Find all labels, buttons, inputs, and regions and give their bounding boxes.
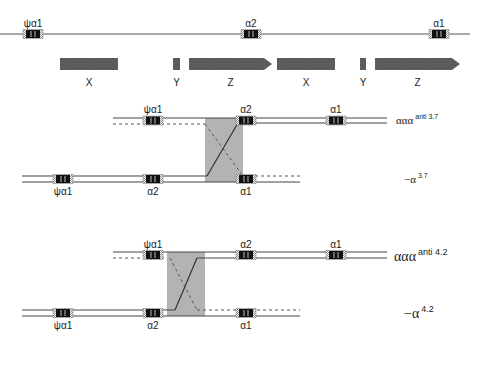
gene-1: α1 [326,104,346,125]
label-sup-4-2: 4.2 [421,304,434,314]
gene-label: α1 [240,320,252,331]
alpha-globin-crossover-diagram: ψα1α2α1 XYZXYZ ψα1α2α1 ψα1α2α1 αααanti 3… [0,0,477,373]
gene-1: ψα1 [53,175,73,197]
gene-label: α2 [240,239,252,250]
gene-label: α1 [433,18,445,29]
gene-1: ψα1 [143,239,163,260]
gene-label: ψα1 [24,18,43,29]
gene-2: α2 [236,104,256,125]
homology-block-y: Y [360,58,367,88]
panel-3-7-crossover: ψα1α2α1 ψα1α2α1 αααanti 3.7 −α3.7 [22,104,438,197]
gene-label: α2 [147,186,159,197]
gene-label: α1 [330,104,342,115]
gene-label: α1 [330,239,342,250]
label-minus-a-4-2: −α [404,306,420,321]
homology-block-x: X [60,58,118,88]
gene-label: ψα1 [54,320,73,331]
svg-text:−α3.7: −α3.7 [404,172,428,185]
homology-block-x: X [277,58,335,88]
homology-block-z: Z [189,58,272,88]
label-aaa-anti-4-2: ααα [394,249,417,264]
homology-block-label: X [303,77,310,88]
gene-label: α1 [240,186,252,197]
gene-label: α2 [240,104,252,115]
label-aaa-anti-3-7: ααα [396,114,414,126]
gene-1: α1 [236,309,256,331]
homology-block-label: Y [360,77,367,88]
gene-1: α1 [326,239,346,260]
homology-block-label: Y [173,77,180,88]
top-chromosome-map: ψα1α2α1 [0,18,470,39]
svg-text:−α4.2: −α4.2 [404,304,434,321]
homology-block-label: Z [414,77,420,88]
homology-block-z: Z [375,58,460,88]
gene-2: α2 [143,175,163,197]
label-sup-anti-3-7: anti 3.7 [415,113,438,120]
homology-blocks: XYZXYZ [60,58,460,88]
homology-block-label: Z [227,77,233,88]
gene-1: α1 [236,175,256,197]
gene-label: ψα1 [144,239,163,250]
gene-1: α1 [429,18,449,39]
svg-text:αααanti 3.7: αααanti 3.7 [396,113,438,126]
gene-1: ψα1 [23,18,43,39]
homology-block-y: Y [173,58,180,88]
gene-label: α2 [147,320,159,331]
gene-2: α2 [143,309,163,331]
gene-1: ψα1 [143,104,163,125]
svg-text:αααanti 4.2: αααanti 4.2 [394,247,448,264]
gene-label: α2 [245,18,257,29]
gene-2: α2 [236,239,256,260]
homology-block-label: X [86,77,93,88]
panel-4-2-crossover: ψα1α2α1 ψα1α2α1 αααanti 4.2 −α4.2 [22,239,448,331]
gene-2: α2 [241,18,261,39]
gene-label: ψα1 [54,186,73,197]
label-sup-anti-4-2: anti 4.2 [418,247,448,257]
gene-1: ψα1 [53,309,73,331]
label-sup-3-7: 3.7 [418,172,428,179]
label-minus-a-3-7: −α [404,173,416,185]
gene-label: ψα1 [144,104,163,115]
